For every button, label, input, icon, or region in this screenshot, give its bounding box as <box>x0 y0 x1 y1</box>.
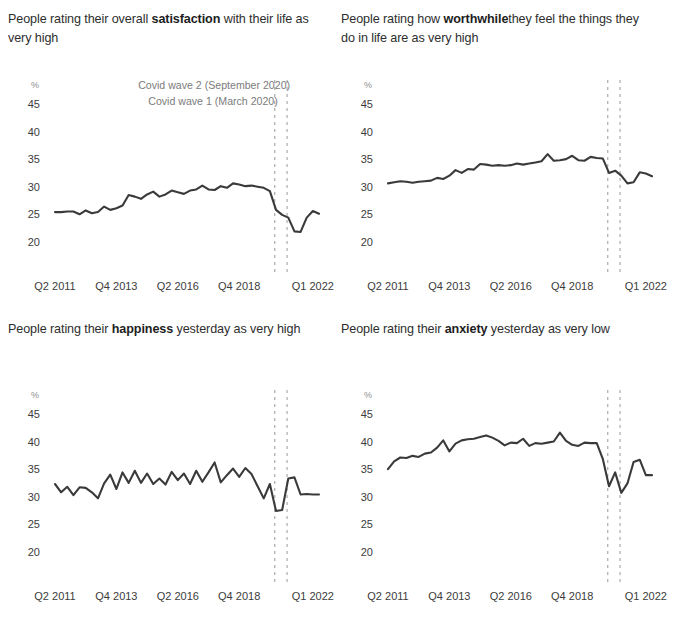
y-axis-tick-30: 30 <box>347 491 373 503</box>
y-axis-tick-25: 25 <box>347 518 373 530</box>
title-pre: People rating their overall <box>8 12 152 26</box>
title-keyword: anxiety <box>445 322 488 336</box>
y-axis-tick-40: 40 <box>14 436 40 448</box>
series-line-happiness <box>55 462 319 511</box>
annotation-covid-wave-1: Covid wave 1 (March 2020) <box>148 95 278 107</box>
y-axis-tick-25: 25 <box>14 208 40 220</box>
y-axis-tick-35: 35 <box>14 153 40 165</box>
chart-svg-satisfaction <box>0 74 333 304</box>
panel-worthwhile: People rating how worthwhilethey feel th… <box>333 0 673 310</box>
y-axis-tick-30: 30 <box>14 491 40 503</box>
y-axis-unit-label: % <box>31 390 39 400</box>
y-axis-tick-45: 45 <box>347 98 373 110</box>
y-axis-unit-label: % <box>31 80 39 90</box>
y-axis-tick-25: 25 <box>14 518 40 530</box>
y-axis-tick-35: 35 <box>347 153 373 165</box>
panel-title-satisfaction: People rating their overall satisfaction… <box>8 10 318 48</box>
panel-anxiety: People rating their anxiety yesterday as… <box>333 310 673 620</box>
y-axis-tick-30: 30 <box>14 181 40 193</box>
chart-svg-happiness <box>0 384 333 614</box>
y-axis-tick-45: 45 <box>14 98 40 110</box>
y-axis-tick-25: 25 <box>347 208 373 220</box>
title-keyword: satisfaction <box>152 12 221 26</box>
series-line-anxiety <box>388 433 652 493</box>
y-axis-tick-20: 20 <box>14 236 40 248</box>
panel-satisfaction: People rating their overall satisfaction… <box>0 0 333 310</box>
x-axis-tick-q4-2018: Q4 2018 <box>199 590 279 602</box>
panel-title-worthwhile: People rating how worthwhilethey feel th… <box>341 10 651 48</box>
y-axis-tick-20: 20 <box>14 546 40 558</box>
x-axis-tick-q1-2022: Q1 2022 <box>606 280 673 292</box>
title-keyword: worthwhile <box>444 12 509 26</box>
y-axis-tick-30: 30 <box>347 181 373 193</box>
y-axis-tick-45: 45 <box>14 408 40 420</box>
annotation-covid-wave-2: Covid wave 2 (September 2020) <box>138 79 290 91</box>
y-axis-tick-40: 40 <box>347 436 373 448</box>
chart-grid: People rating their overall satisfaction… <box>0 0 673 620</box>
chart-svg-anxiety <box>333 384 666 614</box>
y-axis-unit-label: % <box>364 80 372 90</box>
y-axis-tick-40: 40 <box>14 126 40 138</box>
title-post: yesterday as very low <box>487 322 609 336</box>
plot-happiness: %454035302520Q2 2011Q4 2013Q2 2016Q4 201… <box>0 384 333 614</box>
series-line-worthwhile <box>388 154 652 183</box>
plot-anxiety: %454035302520Q2 2011Q4 2013Q2 2016Q4 201… <box>333 384 666 614</box>
plot-satisfaction: %454035302520Q2 2011Q4 2013Q2 2016Q4 201… <box>0 74 333 304</box>
x-axis-tick-q4-2018: Q4 2018 <box>532 280 612 292</box>
y-axis-unit-label: % <box>364 390 372 400</box>
y-axis-tick-40: 40 <box>347 126 373 138</box>
chart-svg-worthwhile <box>333 74 666 304</box>
title-keyword: happiness <box>112 322 173 336</box>
y-axis-tick-20: 20 <box>347 236 373 248</box>
x-axis-tick-q4-2018: Q4 2018 <box>199 280 279 292</box>
plot-worthwhile: %454035302520Q2 2011Q4 2013Q2 2016Q4 201… <box>333 74 666 304</box>
series-line-satisfaction <box>55 183 319 232</box>
y-axis-tick-35: 35 <box>347 463 373 475</box>
panel-happiness: People rating their happiness yesterday … <box>0 310 333 620</box>
title-pre: People rating their <box>341 322 445 336</box>
y-axis-tick-20: 20 <box>347 546 373 558</box>
panel-title-anxiety: People rating their anxiety yesterday as… <box>341 320 651 339</box>
title-pre: People rating their <box>8 322 112 336</box>
title-pre: People rating how <box>341 12 444 26</box>
x-axis-tick-q4-2018: Q4 2018 <box>532 590 612 602</box>
x-axis-tick-q1-2022: Q1 2022 <box>606 590 673 602</box>
title-post: yesterday as very high <box>173 322 300 336</box>
panel-title-happiness: People rating their happiness yesterday … <box>8 320 318 339</box>
y-axis-tick-45: 45 <box>347 408 373 420</box>
y-axis-tick-35: 35 <box>14 463 40 475</box>
